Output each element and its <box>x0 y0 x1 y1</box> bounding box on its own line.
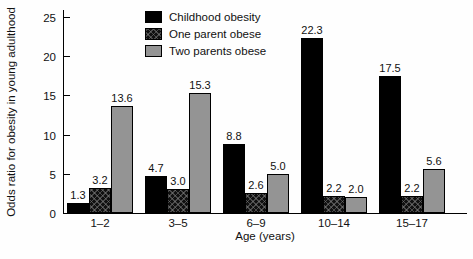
bar-value-label: 17.5 <box>368 62 412 75</box>
bar-value-label: 13.6 <box>100 92 144 105</box>
y-axis-tick <box>63 95 70 96</box>
legend-entry-one-parent-obese: One parent obese <box>145 25 266 42</box>
y-axis-tick-label: 25 <box>26 11 56 25</box>
legend-label: Childhood obesity <box>169 11 260 23</box>
bar-solid-gray <box>111 106 133 213</box>
legend-swatch-crosshatch-icon <box>145 28 162 40</box>
bar-black-crosshatch <box>401 196 423 213</box>
y-axis-tick-label: 5 <box>26 168 56 182</box>
legend-entry-two-parents-obese: Two parents obese <box>145 42 266 59</box>
legend-entry-childhood-obesity: Childhood obesity <box>145 8 266 25</box>
y-axis-tick <box>63 213 70 214</box>
x-axis-category-label: 6–9 <box>221 217 291 229</box>
y-axis-tick <box>63 174 70 175</box>
legend-swatch-gray-icon <box>145 45 162 57</box>
bar-black-crosshatch <box>167 189 189 213</box>
bar-black-crosshatch <box>323 196 345 213</box>
y-axis-tick-label: 0 <box>26 207 56 221</box>
bar-black-crosshatch <box>245 193 267 213</box>
bar-solid-gray <box>267 174 289 213</box>
legend-label: One parent obese <box>169 28 261 40</box>
y-axis-line <box>63 10 64 214</box>
x-axis-line <box>63 213 467 214</box>
bar-value-label: 5.0 <box>256 160 300 173</box>
bar-value-label: 4.7 <box>134 162 178 175</box>
bar-value-label: 8.8 <box>212 130 256 143</box>
bar-solid-gray <box>423 169 445 213</box>
x-axis-label: Age (years) <box>63 230 467 242</box>
bar-value-label: 5.6 <box>412 155 456 168</box>
legend-swatch-black-icon <box>145 11 162 23</box>
bar-black-crosshatch <box>89 188 111 213</box>
x-axis-category-label: 1–2 <box>65 217 135 229</box>
bar-value-label: 15.3 <box>178 79 222 92</box>
y-axis-tick <box>63 135 70 136</box>
y-axis-tick <box>63 17 70 18</box>
bar-value-label: 2.0 <box>334 183 378 196</box>
y-axis-label: Odds ratio for obesity in young adulthoo… <box>5 7 17 217</box>
bar-value-label: 22.3 <box>290 24 334 37</box>
legend-label: Two parents obese <box>169 45 266 57</box>
x-axis-category-label: 3–5 <box>143 217 213 229</box>
bar-solid-gray <box>345 197 367 213</box>
y-axis-tick-label: 10 <box>26 129 56 143</box>
y-axis-tick <box>63 56 70 57</box>
y-axis-tick-label: 20 <box>26 50 56 64</box>
x-axis-category-label: 10–14 <box>299 217 369 229</box>
x-axis-category-label: 15–17 <box>377 217 447 229</box>
bar-solid-black <box>67 203 89 213</box>
y-axis-tick-label: 15 <box>26 89 56 103</box>
legend: Childhood obesity One parent obese Two p… <box>145 8 266 59</box>
bar-chart-figure: Odds ratio for obesity in young adulthoo… <box>0 0 473 259</box>
bar-solid-gray <box>189 93 211 213</box>
